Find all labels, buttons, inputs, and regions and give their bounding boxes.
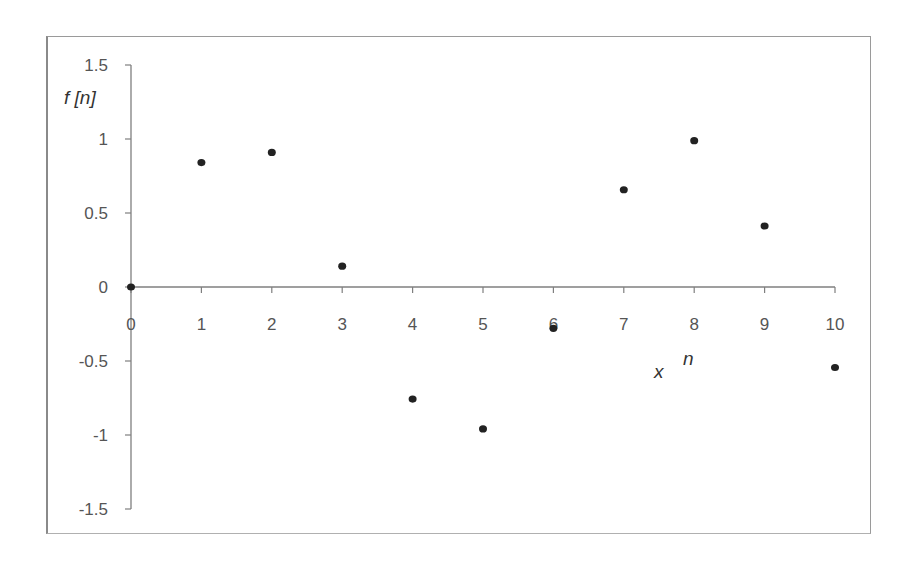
- data-point: [409, 395, 417, 402]
- x-annotation: x: [653, 361, 665, 382]
- x-tick-label: 8: [689, 315, 698, 334]
- data-point: [831, 364, 839, 371]
- data-point: [690, 137, 698, 144]
- data-point: [268, 149, 276, 156]
- data-point: [620, 186, 628, 193]
- y-tick-label: 0.5: [84, 204, 108, 223]
- x-tick-label: 10: [826, 315, 845, 334]
- y-tick-label: 1.5: [84, 56, 108, 75]
- scatter-chart: 1.510.50-0.5-1-1.5 012345678910 f [n] n …: [0, 0, 914, 574]
- y-tick-label: 0: [99, 278, 108, 297]
- data-point: [761, 222, 769, 229]
- x-tick-label: 3: [337, 315, 346, 334]
- data-point: [549, 325, 557, 332]
- data-point: [197, 159, 205, 166]
- x-tick-label: 4: [408, 315, 417, 334]
- x-axis-title: n: [683, 348, 694, 369]
- x-tick-label: 9: [760, 315, 769, 334]
- x-tick-label: 7: [619, 315, 628, 334]
- y-tick-label: -1: [93, 426, 108, 445]
- y-tick-label: -1.5: [79, 500, 108, 519]
- x-tick-label: 1: [197, 315, 206, 334]
- data-point: [479, 425, 487, 432]
- data-point: [127, 283, 135, 290]
- x-tick-label: 5: [478, 315, 487, 334]
- y-axis-ticks: 1.510.50-0.5-1-1.5: [79, 56, 131, 519]
- x-tick-label: 2: [267, 315, 276, 334]
- x-axis-ticks: 012345678910: [126, 287, 844, 334]
- y-tick-label: -0.5: [79, 352, 108, 371]
- data-points: [127, 137, 839, 433]
- y-tick-label: 1: [99, 130, 108, 149]
- data-point: [338, 263, 346, 270]
- x-tick-label: 0: [126, 315, 135, 334]
- y-axis-title: f [n]: [64, 87, 96, 108]
